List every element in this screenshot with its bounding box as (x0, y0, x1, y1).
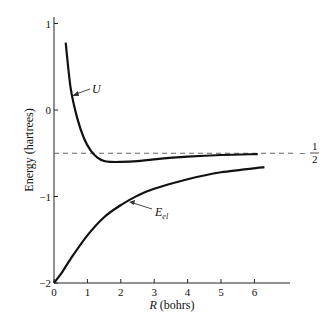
half-minus-sign: − (299, 147, 305, 159)
u-annotation: U (72, 82, 102, 96)
x-tick-label: 5 (218, 286, 224, 298)
y-tick-label: 0 (46, 104, 52, 116)
energy-chart: 0123456 10−1−2 − 1 2 U Eel Energy (hartr… (0, 0, 333, 329)
u-label: U (92, 82, 102, 96)
x-tick-label: 4 (185, 286, 191, 298)
eel-label: Eel (154, 205, 169, 221)
y-tick-label: −2 (39, 277, 51, 289)
u-curve (66, 43, 258, 162)
y-tick-label: −1 (39, 191, 51, 203)
x-tick-label: 1 (85, 286, 91, 298)
x-axis-title: R (bohrs) (148, 298, 194, 312)
eel-annotation: Eel (129, 200, 169, 221)
eel-curve (54, 167, 264, 283)
x-tick-label: 6 (252, 286, 258, 298)
y-axis-title: Energy (hartrees) (22, 108, 36, 191)
half-label: − 1 2 (299, 140, 319, 165)
eel-arrow (133, 203, 152, 209)
half-denominator: 2 (312, 153, 318, 165)
x-tick-label: 0 (51, 286, 57, 298)
x-tick-label: 3 (151, 286, 157, 298)
x-tick-label: 2 (118, 286, 124, 298)
y-tick-label: 1 (46, 18, 52, 30)
u-arrowhead-icon (72, 91, 79, 96)
half-numerator: 1 (312, 140, 318, 152)
x-ticks: 0123456 (51, 279, 257, 298)
